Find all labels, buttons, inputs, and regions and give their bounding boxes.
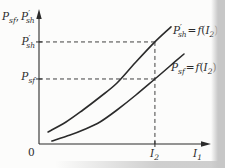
x-axis-label-i1: I1	[193, 148, 202, 159]
figure-canvas: Psf,P′sh P′sh Psf 0 I2 I1 P′sh=f(I2) Psf…	[0, 0, 225, 168]
origin-label: 0	[28, 147, 35, 158]
x-axis-arrow-icon	[201, 141, 211, 146]
x-value-label-i2: I2	[150, 148, 159, 159]
y-value-label-psh: P′sh	[8, 34, 35, 47]
y-axis-title: Psf,P′sh	[2, 9, 35, 22]
page-edge-shadow-bottom	[55, 161, 225, 168]
page-edge-shadow-right	[211, 0, 225, 168]
curve-lower-label: Psf=f(I2)	[171, 62, 217, 73]
y-value-label-psf: Psf	[8, 71, 35, 82]
curve-lower-psf	[52, 54, 184, 141]
y-axis-arrow-icon	[36, 9, 41, 19]
